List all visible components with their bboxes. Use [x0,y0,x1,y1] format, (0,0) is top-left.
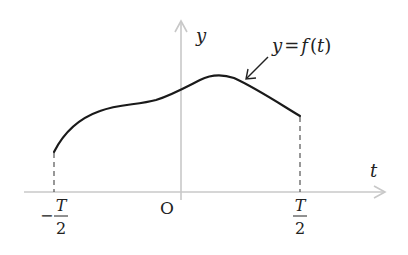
function-graph: y=f(t) y t O − T 2 T 2 [0,0,408,255]
y-axis-label: y [195,25,207,46]
curve-label: y=f(t) [271,35,331,56]
t-axis-label: t [370,160,378,181]
left-tick-label: − T 2 [40,196,68,238]
pointer-arrow-icon [246,57,268,79]
svg-text:2: 2 [295,219,305,238]
origin-label: O [160,198,174,218]
t-axis [24,186,385,198]
svg-text:T: T [295,196,307,215]
y-axis [175,21,187,200]
right-tick-label: T 2 [293,196,307,238]
function-curve [54,76,300,152]
svg-text:T: T [56,196,68,215]
svg-text:−: − [40,206,53,225]
svg-text:2: 2 [56,219,66,238]
